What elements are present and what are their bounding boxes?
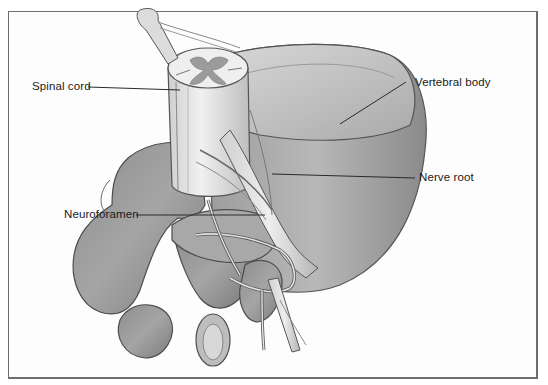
vertebra-illustration <box>0 0 548 385</box>
label-vertebral-body: Vertebral body <box>415 76 491 88</box>
spinal-cord-leader <box>88 87 180 90</box>
dural-sleeve-shape <box>137 8 178 64</box>
label-neuroforamen: Neuroforamen <box>64 208 139 220</box>
label-nerve-root: Nerve root <box>419 171 474 183</box>
label-spinal-cord: Spinal cord <box>32 80 91 92</box>
